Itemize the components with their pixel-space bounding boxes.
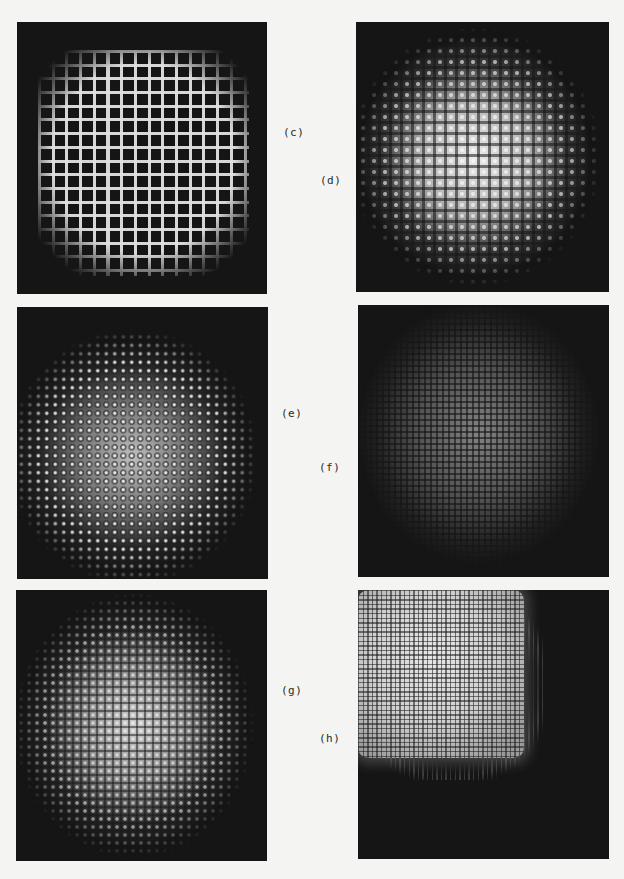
bright-square: [358, 590, 524, 758]
panel-c-label: (c): [283, 126, 304, 139]
panel-f-image: [358, 305, 609, 577]
panel-d-image: [356, 22, 609, 292]
lattice-pattern: [356, 22, 609, 292]
panel-e-label: (e): [281, 407, 302, 420]
ring-dot-pattern: [17, 307, 268, 579]
panel-h-image: [358, 590, 609, 859]
dot-grid-pattern: [16, 590, 267, 861]
panel-h-label: (h): [319, 732, 340, 745]
fine-grid-pattern: [358, 305, 609, 577]
panel-g-image: [16, 590, 267, 861]
panel-d-label: (d): [320, 174, 341, 187]
panel-g-label: (g): [281, 684, 302, 697]
panel-c-image: [17, 22, 267, 294]
grid-pattern: [38, 50, 249, 276]
panel-f-label: (f): [319, 461, 340, 474]
panel-e-image: [17, 307, 268, 579]
